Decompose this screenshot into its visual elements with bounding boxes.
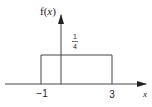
density-rectangle [41,55,112,84]
x-tick-3: 3 [109,89,115,100]
height-numerator: 1 [73,33,77,40]
y-axis-label: f(x) [40,5,56,18]
x-axis-label: x [142,89,147,99]
x-tick-neg1: −1 [36,88,48,99]
uniform-density-diagram: f(x) 1 4 −1 3 x [0,0,152,107]
height-denominator: 4 [73,43,77,50]
